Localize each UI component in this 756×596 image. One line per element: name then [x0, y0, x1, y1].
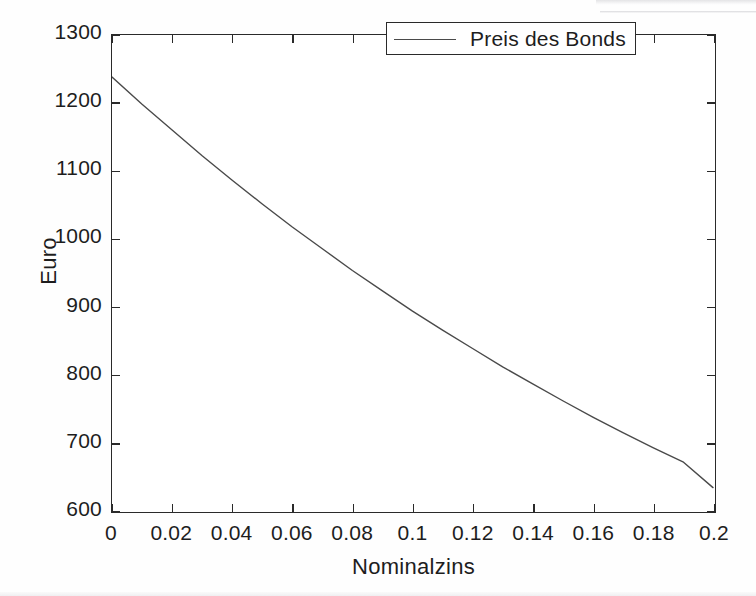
x-axis-tick-label: 0.18 — [633, 521, 675, 545]
y-axis-tick — [112, 375, 120, 376]
x-axis-tick-label: 0.08 — [331, 521, 373, 545]
legend-item-label: Preis des Bonds — [470, 27, 626, 51]
x-axis-tick-label: 0.16 — [573, 521, 615, 545]
y-axis-tick — [707, 511, 715, 512]
legend: Preis des Bonds — [386, 22, 636, 55]
scan-artifact-band-bottom — [0, 592, 756, 596]
x-axis-tick — [413, 504, 414, 512]
x-axis-tick — [111, 35, 112, 43]
y-axis-title: Euro — [36, 206, 62, 316]
y-axis-tick-label: 1100 — [56, 156, 102, 180]
x-axis-tick — [353, 35, 354, 43]
x-axis-tick — [533, 504, 534, 512]
x-axis-tick — [232, 504, 233, 512]
x-axis-tick-label: 0 — [105, 521, 117, 545]
scan-artifact-band-upper — [600, 11, 756, 13]
y-axis-tick — [112, 239, 120, 240]
plot-area — [111, 34, 716, 513]
x-axis-tick-label: 0.04 — [211, 521, 253, 545]
x-axis-tick-label: 0.2 — [699, 521, 729, 545]
y-axis-tick — [707, 375, 715, 376]
figure-canvas: 6007008009001000110012001300 00.020.040.… — [0, 0, 756, 596]
y-axis-tick — [707, 34, 715, 35]
y-axis-tick — [112, 307, 120, 308]
legend-line-swatch — [394, 33, 456, 45]
y-axis-tick — [707, 102, 715, 103]
x-axis-tick — [232, 35, 233, 43]
y-axis-tick — [112, 443, 120, 444]
x-axis-tick-label: 0.06 — [271, 521, 313, 545]
x-axis-tick-labels: 00.020.040.060.080.10.120.140.160.180.2 — [111, 521, 716, 549]
y-axis-tick-label: 700 — [66, 429, 102, 453]
x-axis-tick — [654, 35, 655, 43]
y-axis-tick — [707, 443, 715, 444]
y-axis-tick-label: 1200 — [54, 88, 102, 112]
y-axis-tick — [112, 511, 120, 512]
x-axis-tick-label: 0.12 — [452, 521, 494, 545]
y-axis-tick-label: 1300 — [54, 20, 102, 44]
y-axis-tick-label: 600 — [66, 497, 102, 521]
x-axis-tick — [594, 504, 595, 512]
x-axis-tick — [292, 504, 293, 512]
x-axis-tick-label: 0.1 — [398, 521, 428, 545]
y-axis-tick-label: 800 — [66, 361, 102, 385]
y-axis-tick — [112, 171, 120, 172]
y-axis-tick — [112, 102, 120, 103]
line-series-preis-des-bonds — [112, 35, 715, 512]
y-axis-tick — [707, 239, 715, 240]
x-axis-title: Nominalzins — [111, 554, 716, 580]
y-axis-tick-label: 900 — [66, 293, 102, 317]
y-axis-tick — [112, 34, 120, 35]
y-axis-tick — [707, 307, 715, 308]
x-axis-tick — [654, 504, 655, 512]
x-axis-tick — [292, 35, 293, 43]
x-axis-tick — [172, 504, 173, 512]
x-axis-tick — [353, 504, 354, 512]
scan-artifact-band-top — [596, 0, 756, 5]
x-axis-tick-label: 0.14 — [512, 521, 554, 545]
x-axis-tick — [473, 504, 474, 512]
x-axis-tick — [714, 35, 715, 43]
x-axis-tick — [172, 35, 173, 43]
y-axis-tick — [707, 171, 715, 172]
x-axis-tick-label: 0.02 — [150, 521, 192, 545]
